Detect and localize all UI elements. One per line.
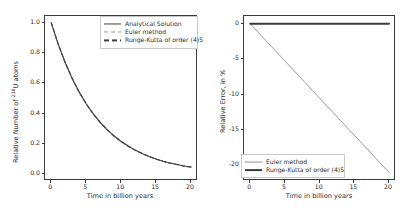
legend-label-runge-kutta-error: Runge-Kutta of order (4)5 (266, 167, 344, 173)
xtick-label: 15 (349, 184, 357, 190)
xtick-label: 10 (116, 184, 124, 190)
decay-curve-legend: Analytical Solution Euler method Runge-K… (100, 16, 198, 49)
legend-key-runge-kutta-icon (104, 37, 121, 44)
relative-error-xlabel: Time in billion years (286, 193, 352, 200)
ytick-label: -20 (217, 161, 239, 167)
ylabel-isotope-symbol: U (12, 84, 20, 89)
xtick-label: 15 (151, 184, 159, 190)
ytick-mark (42, 113, 45, 114)
figure: 0.00.20.40.60.81.005101520 Time in billi… (0, 0, 417, 215)
legend-item-runge-kutta-error[interactable]: Runge-Kutta of order (4)5 (245, 166, 340, 174)
legend-key-runge-kutta-error-icon (245, 167, 262, 174)
ytick-mark (241, 94, 244, 95)
legend-item-euler[interactable]: Euler method (104, 28, 193, 36)
ytick-label: -5 (217, 55, 239, 61)
panel-relative-error: -20-15-10-5005101520 Time in billion yea… (210, 0, 417, 215)
ytick-label: 0.6 (18, 79, 40, 85)
decay-curve-ylabel: Relative Number of 238U atoms (12, 61, 20, 163)
relative-error-ylabel: Relative Error, in % (220, 70, 227, 133)
relative-error-legend: Euler method Runge-Kutta of order (4)5 (241, 154, 345, 178)
ytick-mark (42, 143, 45, 144)
ytick-mark (42, 52, 45, 53)
legend-item-runge-kutta[interactable]: Runge-Kutta of order (4)5 (104, 36, 193, 44)
ytick-mark (241, 23, 244, 24)
legend-item-analytical[interactable]: Analytical Solution (104, 20, 193, 28)
ytick-mark (241, 129, 244, 130)
ytick-label: 0.0 (18, 170, 40, 176)
ylabel-prefix: Relative Number of (12, 97, 20, 163)
ylabel-isotope-mass: 238 (11, 88, 16, 97)
legend-key-euler-icon (104, 29, 121, 36)
panel-decay-curve: 0.00.20.40.60.81.005101520 Time in billi… (0, 0, 210, 215)
ytick-label: 0.2 (18, 140, 40, 146)
ytick-mark (241, 58, 244, 59)
legend-key-analytical-icon (104, 21, 121, 28)
legend-item-euler-error[interactable]: Euler method (245, 158, 340, 166)
xtick-label: 20 (186, 184, 194, 190)
legend-key-euler-error-icon (245, 159, 262, 166)
ytick-label: 0.4 (18, 110, 40, 116)
xtick-label: 20 (384, 184, 392, 190)
xtick-label: 0 (247, 184, 251, 190)
xtick-label: 10 (315, 184, 323, 190)
legend-label-euler-error: Euler method (266, 159, 307, 165)
ytick-label: 1.0 (18, 19, 40, 25)
ytick-mark (42, 82, 45, 83)
ylabel-suffix: atoms (12, 61, 20, 84)
series-euler-method (250, 24, 389, 173)
xtick-label: 5 (83, 184, 87, 190)
legend-label-analytical: Analytical Solution (125, 21, 182, 27)
xtick-label: 0 (48, 184, 52, 190)
ytick-label: 0 (217, 20, 239, 26)
decay-curve-xlabel: Time in billion years (87, 193, 153, 200)
ytick-mark (42, 173, 45, 174)
legend-label-euler: Euler method (125, 29, 166, 35)
xtick-label: 5 (282, 184, 286, 190)
ytick-label: 0.8 (18, 49, 40, 55)
legend-label-runge-kutta: Runge-Kutta of order (4)5 (125, 37, 203, 43)
ytick-mark (42, 22, 45, 23)
